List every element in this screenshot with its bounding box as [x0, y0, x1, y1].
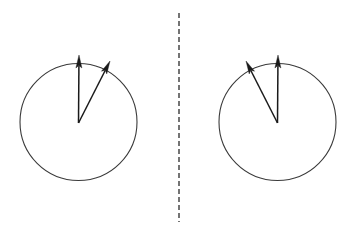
- right-vector-vertical: [275, 55, 281, 123]
- left-vector-vertical: [76, 55, 82, 123]
- left-vector-slanted: [79, 61, 111, 123]
- left-panel: [20, 55, 137, 181]
- right-panel: [219, 55, 336, 181]
- right-vector-slanted: [246, 61, 278, 123]
- right-vector-slanted-shaft: [251, 71, 278, 123]
- vector-diagram: [0, 0, 358, 232]
- left-vector-slanted-shaft: [79, 71, 106, 123]
- diagram-canvas: [0, 0, 358, 232]
